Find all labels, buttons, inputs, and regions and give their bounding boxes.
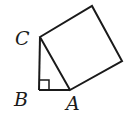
segment-cb	[39, 37, 40, 90]
label-a: A	[64, 92, 80, 114]
geometry-diagram: C B A	[0, 0, 124, 120]
right-angle-marker	[39, 80, 49, 90]
label-b: B	[13, 88, 28, 110]
label-c: C	[15, 27, 30, 49]
square-on-hypotenuse	[40, 6, 122, 90]
